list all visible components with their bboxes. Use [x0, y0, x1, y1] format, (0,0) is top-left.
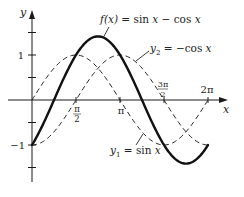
function-plot: x y π 2 π 3π 2 2π 1 −1 f(x) = sin x − co… [0, 0, 244, 197]
y-tick-label-1: 1 [18, 50, 24, 61]
svg-text:π: π [74, 104, 80, 114]
x-tick-label-2pi: 2π [201, 84, 214, 95]
svg-text:f(x) = sin x − cos x: f(x) = sin x − cos x [99, 13, 201, 25]
y-axis-arrow-icon [29, 10, 35, 19]
annotation-y2: y2 = −cos x [136, 42, 212, 61]
y-tick-label-neg1: −1 [10, 140, 25, 151]
x-axis-label: x [223, 103, 230, 116]
svg-text:3π: 3π [158, 80, 168, 89]
svg-text:y2 = −cos x: y2 = −cos x [149, 42, 212, 57]
annotation-f: f(x) = sin x − cos x [99, 13, 201, 38]
svg-text:y1 = sin x: y1 = sin x [109, 144, 161, 159]
annotation-y1: y1 = sin x [109, 134, 161, 159]
y-axis-label: y [19, 6, 27, 19]
x-tick-label-pi-over-2: π 2 [73, 104, 81, 124]
x-tick-label-pi: π [118, 105, 125, 116]
svg-text:2: 2 [160, 90, 165, 99]
x-tick-label-3pi-over-2: 3π 2 [158, 80, 168, 99]
svg-text:2: 2 [74, 114, 79, 124]
